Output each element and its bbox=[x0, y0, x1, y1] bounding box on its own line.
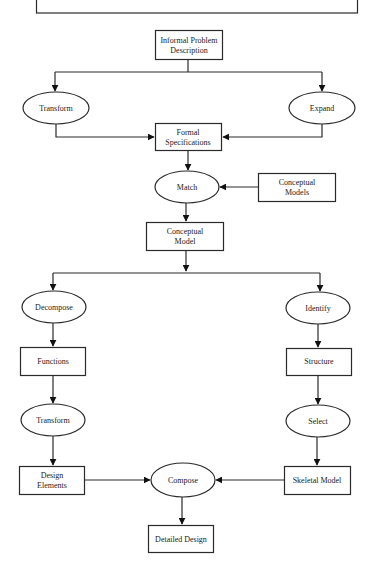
node-skeletal-model: Skeletal Model bbox=[285, 467, 351, 495]
node-label: Skeletal Model bbox=[293, 476, 342, 485]
node-label: Identify bbox=[305, 304, 330, 313]
top-cropped-box bbox=[37, 0, 358, 13]
node-label: Formal bbox=[176, 128, 200, 137]
node-label: Functions bbox=[37, 357, 69, 366]
node-label: Conceptual bbox=[279, 178, 316, 187]
node-label: Informal Problem bbox=[160, 36, 218, 45]
node-conceptual-model: Conceptual Model bbox=[147, 223, 224, 251]
node-label: Structure bbox=[304, 357, 334, 366]
node-label: Design bbox=[41, 471, 64, 480]
node-formal-specifications: Formal Specifications bbox=[156, 124, 222, 151]
node-label: Description bbox=[170, 46, 207, 55]
node-label: Expand bbox=[310, 104, 334, 113]
node-label: Match bbox=[177, 183, 197, 192]
node-transform-top: Transform bbox=[23, 92, 89, 124]
node-structure: Structure bbox=[287, 349, 352, 376]
node-label: Transform bbox=[39, 104, 73, 113]
node-informal-problem-description: Informal Problem Description bbox=[156, 31, 223, 60]
node-decompose: Decompose bbox=[22, 291, 86, 323]
node-conceptual-models: Conceptual Models bbox=[259, 174, 336, 202]
node-select: Select bbox=[286, 405, 350, 437]
node-compose: Compose bbox=[151, 463, 215, 497]
edge-expand-to-formal bbox=[223, 124, 322, 137]
node-design-elements: Design Elements bbox=[20, 467, 85, 495]
flowchart-diagram: Informal Problem Description Transform E… bbox=[0, 0, 374, 586]
node-label: Elements bbox=[37, 481, 67, 490]
node-label: Detailed Design bbox=[155, 535, 207, 544]
node-label: Transform bbox=[36, 416, 70, 425]
node-label: Compose bbox=[168, 476, 199, 485]
node-label: Decompose bbox=[35, 303, 73, 312]
node-label: Specifications bbox=[165, 138, 210, 147]
node-match: Match bbox=[155, 171, 219, 203]
node-label: Select bbox=[308, 417, 328, 426]
node-expand: Expand bbox=[289, 92, 355, 124]
node-detailed-design: Detailed Design bbox=[149, 526, 214, 553]
edge-transform-to-formal bbox=[56, 124, 154, 137]
node-label: Models bbox=[285, 188, 309, 197]
node-label: Model bbox=[175, 237, 197, 246]
node-transform-bottom: Transform bbox=[21, 404, 85, 436]
node-functions: Functions bbox=[21, 348, 86, 376]
node-label: Conceptual bbox=[167, 227, 204, 236]
node-identify: Identify bbox=[286, 292, 350, 324]
